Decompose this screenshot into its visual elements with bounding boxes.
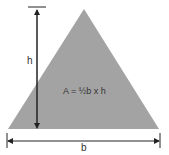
height-label: h [27,56,33,66]
area-formula: A = ½b x h [63,87,106,96]
base-label: b [81,143,87,153]
triangle-diagram [0,0,169,155]
triangle-shape [8,9,159,129]
